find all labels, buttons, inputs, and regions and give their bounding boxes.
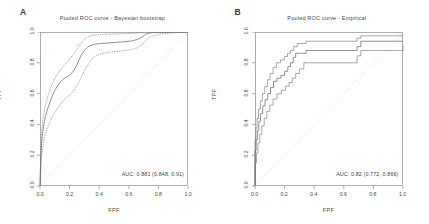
panel-a-auc-annotation: AUC: 0.881 (0.848, 0.91) xyxy=(122,171,184,177)
panel-b-plot-area: 0.00.20.40.60.81.00.00.20.40.60.81.0 xyxy=(255,32,403,186)
roc-figure: A Pooled ROC curve - Bayesian bootstrap … xyxy=(0,0,429,224)
x-tick-label: 1.0 xyxy=(184,191,191,197)
panel-b-y-axis-label: TPF xyxy=(211,89,217,100)
panel-a-plot-area: 0.00.20.40.60.81.00.00.20.40.60.81.0 xyxy=(40,32,188,186)
y-tick-label: 1.0 xyxy=(241,28,252,34)
x-tick-label: 0.8 xyxy=(155,191,162,197)
x-tick-label: 0.6 xyxy=(340,191,347,197)
y-tick-label: 0.8 xyxy=(241,59,252,65)
x-tick-label: 0.2 xyxy=(66,191,73,197)
roc-curve-series-2 xyxy=(255,46,403,186)
panel-b-auc-annotation: AUC: 0.82 (0.772, 0.866) xyxy=(336,171,398,177)
panel-b-title: Pooled ROC curve - Empirical xyxy=(215,15,429,21)
panel-a-title: Pooled ROC curve - Bayesian bootstrap xyxy=(0,15,215,21)
x-tick-label: 1.0 xyxy=(399,191,406,197)
x-tick-label: 0.4 xyxy=(96,191,103,197)
y-tick-label: 0.6 xyxy=(26,90,37,96)
y-tick-label: 1.0 xyxy=(26,28,37,34)
x-tick-label: 0.4 xyxy=(310,191,317,197)
panel-a-x-axis-label: FPF xyxy=(40,207,188,213)
y-tick-label: 0.4 xyxy=(241,120,252,126)
y-tick-label: 0.0 xyxy=(241,182,252,188)
panel-a-y-axis-label: TPF xyxy=(0,89,2,100)
x-tick-label: 0.0 xyxy=(251,191,258,197)
y-tick-label: 0.8 xyxy=(26,59,37,65)
x-tick-label: 0.2 xyxy=(280,191,287,197)
panel-b-x-axis-label: FPF xyxy=(255,207,403,213)
y-tick-label: 0.4 xyxy=(26,120,37,126)
roc-curve-series-1 xyxy=(255,36,403,186)
chance-diagonal-reference-line xyxy=(40,32,188,186)
x-tick-label: 0.0 xyxy=(36,191,43,197)
chance-diagonal-reference-line xyxy=(255,32,403,186)
x-tick-label: 0.6 xyxy=(125,191,132,197)
x-tick-label: 0.8 xyxy=(369,191,376,197)
panel-a: A Pooled ROC curve - Bayesian bootstrap … xyxy=(0,0,215,224)
y-tick-label: 0.2 xyxy=(241,151,252,157)
panel-b: B Pooled ROC curve - Empirical 0.00.20.4… xyxy=(215,0,429,224)
y-tick-label: 0.2 xyxy=(26,151,37,157)
y-tick-label: 0.0 xyxy=(26,182,37,188)
y-tick-label: 0.6 xyxy=(241,90,252,96)
